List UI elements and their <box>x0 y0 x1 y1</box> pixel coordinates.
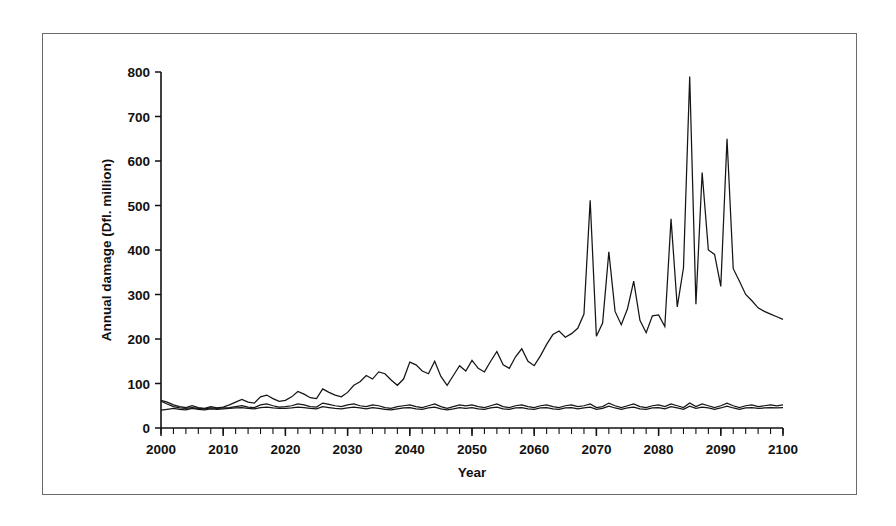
y-tick-label: 600 <box>127 154 150 169</box>
x-tick-label: 2020 <box>270 442 300 457</box>
series-paths <box>161 76 783 410</box>
x-tick-label: 2000 <box>146 442 176 457</box>
y-tick-label: 400 <box>127 243 150 258</box>
x-tick-label: 2080 <box>644 442 674 457</box>
series-flat-scenario-b <box>161 406 783 410</box>
figure-root: 0100200300400500600700800 20002010202020… <box>0 0 896 526</box>
x-axis-tick-labels: 2000201020202030204020502060207020802090… <box>146 442 798 457</box>
x-tick-label: 2040 <box>395 442 425 457</box>
x-tick-label: 2090 <box>706 442 736 457</box>
x-axis-title: Year <box>458 465 487 480</box>
x-tick-label: 2060 <box>519 442 549 457</box>
y-axis-tick-labels: 0100200300400500600700800 <box>127 65 150 436</box>
series-rising-scenario <box>161 76 783 408</box>
y-axis-ticks <box>155 72 161 428</box>
y-tick-label: 700 <box>127 110 150 125</box>
y-tick-label: 500 <box>127 199 150 214</box>
line-chart: 0100200300400500600700800 20002010202020… <box>43 34 856 494</box>
y-tick-label: 300 <box>127 288 150 303</box>
y-axis-title: Annual damage (Dfl. million) <box>99 159 114 341</box>
x-axis-ticks <box>161 428 783 436</box>
x-tick-label: 2030 <box>333 442 363 457</box>
x-tick-label: 2070 <box>581 442 611 457</box>
y-tick-label: 800 <box>127 65 150 80</box>
y-tick-label: 100 <box>127 377 150 392</box>
y-tick-label: 0 <box>142 421 150 436</box>
figure-border: 0100200300400500600700800 20002010202020… <box>42 33 857 495</box>
y-tick-label: 200 <box>127 332 150 347</box>
x-tick-label: 2100 <box>768 442 798 457</box>
x-tick-label: 2050 <box>457 442 487 457</box>
x-tick-label: 2010 <box>208 442 238 457</box>
